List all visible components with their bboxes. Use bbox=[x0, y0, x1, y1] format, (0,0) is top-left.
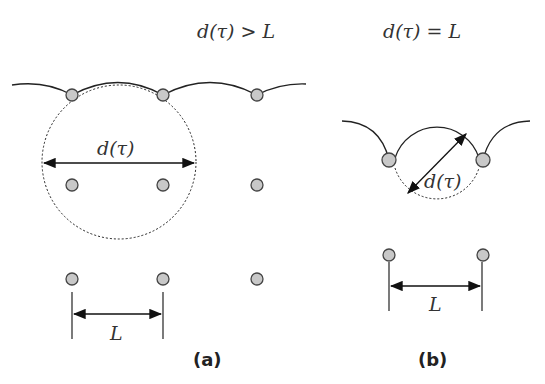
panel-b-title: d(τ) = L bbox=[383, 20, 461, 42]
panel-a: d(τ) > L d(τ) L (a) bbox=[12, 20, 306, 370]
diameter-label: d(τ) bbox=[97, 137, 135, 159]
caption-a: (a) bbox=[193, 349, 222, 370]
figure: d(τ) > L d(τ) L (a) d(τ) = L d(τ) L (b) bbox=[0, 0, 545, 384]
spacing-label-b: L bbox=[428, 293, 442, 315]
caption-b: (b) bbox=[418, 349, 447, 370]
nodes bbox=[66, 89, 263, 285]
panel-a-title: d(τ) > L bbox=[197, 20, 275, 42]
circle-solid-arc bbox=[395, 127, 479, 158]
dashed-circle bbox=[42, 85, 196, 239]
spacing-label: L bbox=[109, 322, 123, 344]
panel-b: d(τ) = L d(τ) L (b) bbox=[342, 20, 530, 370]
diameter-label-b: d(τ) bbox=[424, 170, 462, 192]
